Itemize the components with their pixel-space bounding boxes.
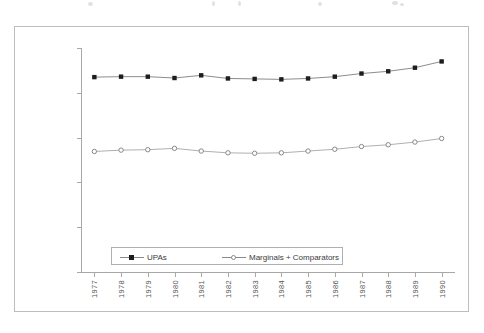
- x-axis-tick-label: 1977: [90, 280, 99, 298]
- y-axis-tick: [77, 272, 82, 273]
- data-point-marker: [306, 149, 310, 153]
- x-axis-tick-label: 1981: [197, 280, 206, 298]
- x-axis-tick-label: 1983: [251, 280, 260, 298]
- x-axis-tick-label: 1982: [224, 280, 233, 298]
- data-point-marker: [333, 147, 337, 151]
- legend-item-marginals-comparators: Marginals + Comparators: [222, 248, 339, 266]
- x-axis-tick: [201, 272, 202, 277]
- data-point-marker: [146, 74, 150, 78]
- data-point-marker: [92, 149, 96, 153]
- x-axis-tick: [442, 272, 443, 277]
- data-point-marker: [413, 140, 417, 144]
- data-point-marker: [359, 71, 363, 75]
- data-point-marker: [252, 77, 256, 81]
- data-point-marker: [413, 66, 417, 70]
- series-layer: [81, 48, 455, 272]
- x-axis-line: [81, 272, 455, 273]
- data-point-marker: [386, 69, 390, 73]
- data-point-marker: [252, 151, 256, 155]
- data-point-marker: [172, 146, 176, 150]
- data-point-marker: [92, 75, 96, 79]
- x-axis-tick-label: 1984: [277, 280, 286, 298]
- data-point-marker: [279, 151, 283, 155]
- x-axis-tick: [308, 272, 309, 277]
- legend-label-upas: UPAs: [147, 253, 167, 262]
- data-point-marker: [119, 74, 123, 78]
- chart-legend: UPAs Marginals + Comparators: [111, 247, 343, 265]
- chart-frame: 05000001000000150000020000002500000 1977…: [14, 26, 469, 312]
- x-axis-tick-label: 1980: [171, 280, 180, 298]
- x-axis-tick-label: 1989: [411, 280, 420, 298]
- data-point-marker: [306, 76, 310, 80]
- x-axis-tick: [121, 272, 122, 277]
- x-axis-tick: [281, 272, 282, 277]
- legend-item-upas: UPAs: [120, 248, 167, 266]
- x-axis-tick: [148, 272, 149, 277]
- x-axis-tick-label: 1990: [438, 280, 447, 298]
- x-axis-tick: [175, 272, 176, 277]
- plot-area: 05000001000000150000020000002500000 1977…: [81, 48, 455, 272]
- legend-label-marginals-comparators: Marginals + Comparators: [249, 253, 339, 262]
- x-axis-tick: [255, 272, 256, 277]
- legend-marker-open-circle-icon: [222, 253, 246, 262]
- data-point-marker: [279, 77, 283, 81]
- x-axis-tick-label: 1978: [117, 280, 126, 298]
- x-axis-tick-label: 1988: [384, 280, 393, 298]
- data-point-marker: [439, 59, 443, 63]
- data-point-marker: [199, 149, 203, 153]
- data-point-marker: [386, 143, 390, 147]
- data-point-marker: [359, 144, 363, 148]
- x-axis-tick-label: 1987: [358, 280, 367, 298]
- data-point-marker: [199, 73, 203, 77]
- x-axis-tick-label: 1985: [304, 280, 313, 298]
- x-axis-tick-label: 1986: [331, 280, 340, 298]
- x-axis-tick: [94, 272, 95, 277]
- data-point-marker: [226, 76, 230, 80]
- x-axis-tick: [335, 272, 336, 277]
- data-point-marker: [119, 148, 123, 152]
- data-point-marker: [439, 136, 443, 140]
- x-axis-tick: [415, 272, 416, 277]
- x-axis-tick: [388, 272, 389, 277]
- data-point-marker: [146, 148, 150, 152]
- legend-marker-filled-square-icon: [120, 253, 144, 262]
- x-axis-tick-label: 1979: [144, 280, 153, 298]
- x-axis-tick: [228, 272, 229, 277]
- chart-page: 05000001000000150000020000002500000 1977…: [0, 0, 484, 333]
- data-point-marker: [333, 74, 337, 78]
- scan-artifact-row: [0, 0, 484, 14]
- data-point-marker: [226, 151, 230, 155]
- x-axis-tick: [362, 272, 363, 277]
- data-point-marker: [172, 76, 176, 80]
